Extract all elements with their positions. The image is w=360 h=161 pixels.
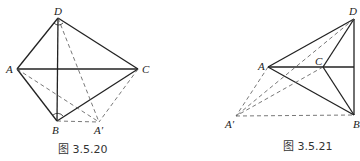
label-A: A — [257, 60, 265, 72]
label-D: D — [53, 5, 62, 17]
caption-figure-3-5-21: 图 3.5.21 — [283, 140, 332, 153]
edge-CD — [323, 19, 354, 67]
edge-DA — [17, 18, 58, 69]
edge-AB — [17, 69, 57, 121]
label-C: C — [142, 63, 150, 75]
edge-BC — [57, 69, 138, 121]
figure-3-5-21: D A C B A′ 图 3.5.21 — [224, 5, 360, 153]
edge-DA-prime — [58, 18, 99, 122]
label-B: B — [353, 118, 360, 130]
label-A-prime: A′ — [224, 118, 235, 130]
edge-DC — [58, 18, 138, 69]
edge-A-prime-B — [236, 115, 354, 116]
edge-BA-prime — [57, 121, 99, 122]
label-C: C — [315, 55, 323, 67]
angle-mark-B — [53, 113, 63, 116]
edge-CB — [323, 67, 354, 115]
edge-AA-prime — [236, 67, 268, 116]
figure-3-5-20: D A C B A′ 图 3.5.20 — [5, 5, 150, 156]
caption-figure-3-5-20: 图 3.5.20 — [58, 143, 107, 156]
edge-CA-prime — [236, 67, 323, 116]
edge-AD — [268, 19, 354, 67]
geometry-figures: D A C B A′ 图 3.5.20 D A C B A′ 图 3.5.21 — [0, 0, 360, 161]
label-B: B — [52, 124, 59, 136]
edge-CA-prime — [99, 69, 138, 122]
label-D: D — [348, 5, 357, 17]
edge-AB — [268, 67, 354, 115]
label-A: A — [5, 63, 13, 75]
label-A-prime: A′ — [93, 124, 104, 136]
